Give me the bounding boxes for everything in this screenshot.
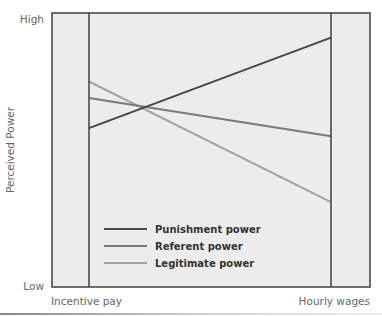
x-tick-hourly-wages: Hourly wages <box>299 295 370 307</box>
y-tick-low: Low <box>23 280 44 292</box>
chart: High Low Perceived Power Incentive pay H… <box>0 0 382 316</box>
y-axis-label: Perceived Power <box>4 106 16 193</box>
y-tick-high: High <box>20 13 44 25</box>
legend-label-legitimate-power: Legitimate power <box>155 258 254 269</box>
legend-label-punishment-power: Punishment power <box>155 224 261 235</box>
page-bottom-rule <box>0 313 382 315</box>
legend-label-referent-power: Referent power <box>155 241 243 252</box>
x-tick-incentive-pay: Incentive pay <box>51 295 122 307</box>
